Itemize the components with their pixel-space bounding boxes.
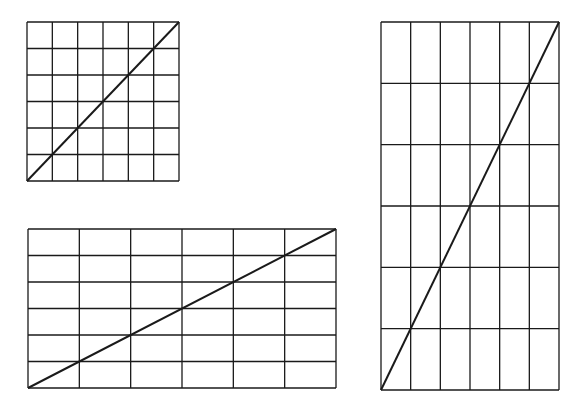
grid-svg [27, 22, 179, 181]
grid-svg [381, 22, 559, 390]
grid-square [27, 22, 179, 181]
grid-wide [28, 229, 336, 388]
grid-tall [381, 22, 559, 390]
grid-svg [28, 229, 336, 388]
